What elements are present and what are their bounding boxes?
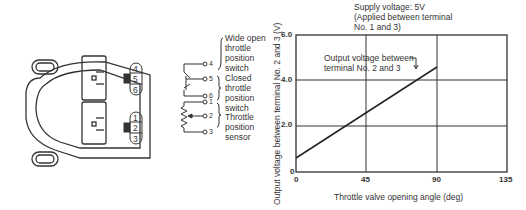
x-tick-135: 135 bbox=[499, 175, 512, 184]
pin-6: 6 bbox=[133, 85, 138, 95]
pin-2: 2 bbox=[133, 123, 138, 133]
line-annotation: Output voltage between terminal No. 2 an… bbox=[324, 53, 414, 73]
throttle-sensor-label: Throttleposition sensor bbox=[225, 112, 254, 142]
pin-1: 1 bbox=[133, 113, 138, 123]
y-tick-6: 6.0 bbox=[281, 30, 292, 39]
pin-5: 5 bbox=[133, 74, 138, 84]
closed-switch-label: Closedthrottle positionswitch bbox=[225, 73, 254, 113]
pin-4: 4 bbox=[133, 64, 138, 74]
schematic-circuit bbox=[181, 38, 223, 134]
x-tick-0: 0 bbox=[294, 175, 298, 184]
chart-title: Supply voltage: 5V (Applied between term… bbox=[354, 2, 452, 32]
x-tick-45: 45 bbox=[361, 175, 370, 184]
terminal-1: 1 bbox=[209, 97, 213, 107]
pin-3: 3 bbox=[133, 134, 138, 144]
terminal-2: 2 bbox=[209, 111, 213, 121]
x-axis-label: Throttle valve opening angle (deg) bbox=[334, 192, 463, 202]
y-axis-label: Output voltage between terminal No. 2 an… bbox=[272, 23, 282, 205]
y-tick-2: 2.0 bbox=[281, 120, 292, 129]
terminal-3: 3 bbox=[209, 127, 213, 137]
y-tick-4: 4.0 bbox=[281, 75, 292, 84]
terminal-5: 5 bbox=[209, 74, 213, 84]
wide-open-switch-label: Wide openthrottle positionswitch bbox=[225, 33, 266, 73]
x-tick-90: 90 bbox=[432, 175, 441, 184]
terminal-4: 4 bbox=[209, 59, 213, 69]
